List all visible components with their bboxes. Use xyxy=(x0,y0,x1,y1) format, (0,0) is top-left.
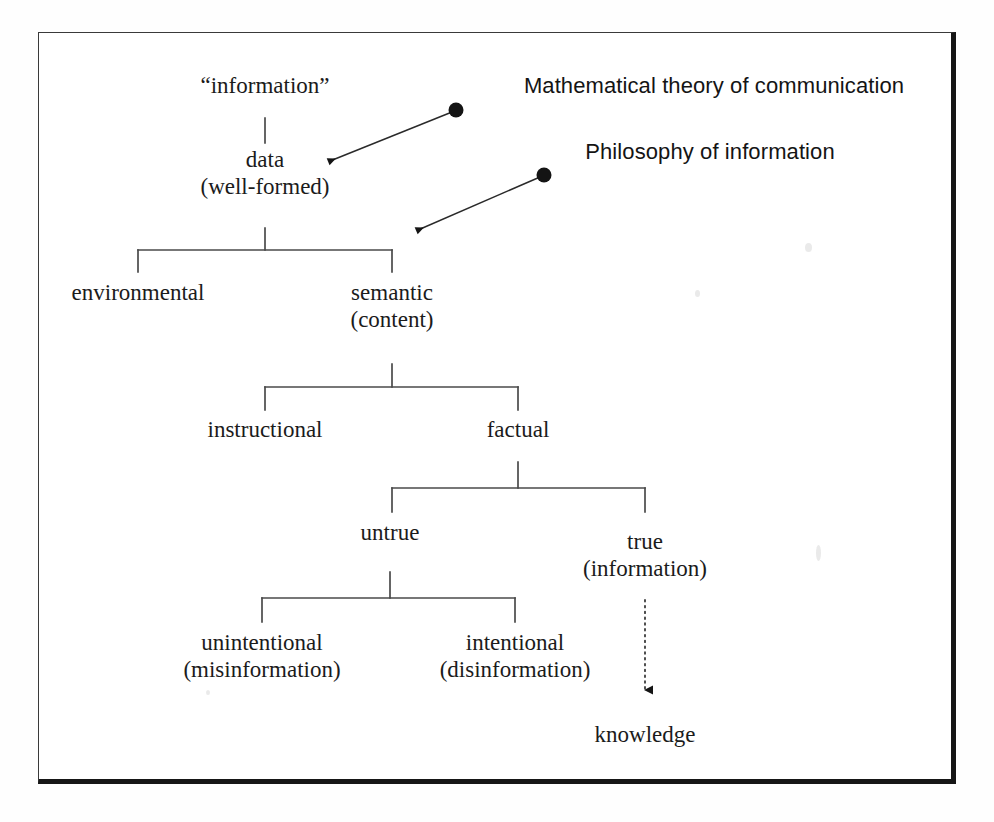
node-knowledge-label: knowledge xyxy=(595,722,696,747)
node-information: “information” xyxy=(200,72,329,99)
node-factual: factual xyxy=(487,416,550,443)
scan-speck xyxy=(206,690,210,695)
node-unintentional-sublabel: (misinformation) xyxy=(183,656,340,683)
node-unintentional: unintentional (misinformation) xyxy=(183,629,340,683)
node-factual-label: factual xyxy=(487,417,550,442)
scanned-page: “information” data (well-formed) environ… xyxy=(0,0,994,822)
node-semantic-sublabel: (content) xyxy=(350,306,433,333)
node-unintentional-label: unintentional xyxy=(201,630,322,655)
node-intentional: intentional (disinformation) xyxy=(440,629,591,683)
node-information-label: “information” xyxy=(200,73,329,98)
node-semantic: semantic (content) xyxy=(350,279,433,333)
node-true-information: true (information) xyxy=(583,528,707,582)
node-knowledge: knowledge xyxy=(595,721,696,748)
node-true-label: true xyxy=(627,529,663,554)
node-data: data (well-formed) xyxy=(201,146,330,200)
node-true-sublabel: (information) xyxy=(583,555,707,582)
node-environmental-label: environmental xyxy=(72,280,205,305)
node-untrue-label: untrue xyxy=(361,520,420,545)
scan-speck xyxy=(695,290,700,297)
callout-philosophy-of-information: Philosophy of information xyxy=(585,139,835,165)
node-semantic-label: semantic xyxy=(351,280,433,305)
node-data-label: data xyxy=(246,147,284,172)
scan-speck xyxy=(816,545,821,561)
node-intentional-label: intentional xyxy=(466,630,564,655)
node-environmental: environmental xyxy=(72,279,205,306)
callout-mathematical-theory-of-communication: Mathematical theory of communication xyxy=(524,73,904,99)
node-untrue: untrue xyxy=(361,519,420,546)
scan-speck xyxy=(805,243,812,252)
node-intentional-sublabel: (disinformation) xyxy=(440,656,591,683)
node-instructional: instructional xyxy=(208,416,323,443)
node-instructional-label: instructional xyxy=(208,417,323,442)
node-data-sublabel: (well-formed) xyxy=(201,173,330,200)
